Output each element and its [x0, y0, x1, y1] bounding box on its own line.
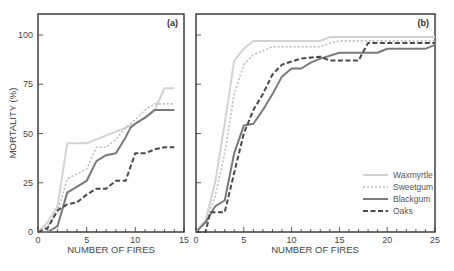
x-tick-label: 5: [241, 235, 246, 245]
series-blackgum: [38, 110, 174, 232]
legend-label-blackgum: Blackgum: [393, 194, 430, 204]
y-tick-label: 0: [28, 227, 33, 237]
x-tick-label: 25: [430, 235, 440, 245]
legend-label-sweetgum: Sweetgum: [393, 182, 433, 192]
legend-label-oaks: Oaks: [393, 206, 413, 216]
panel-a-x-axis-title: NUMBER OF FIRES: [67, 244, 155, 255]
y-axis-title: MORTALITY (%): [7, 88, 18, 159]
x-tick-label: 0: [35, 235, 40, 245]
y-tick-label: 50: [23, 129, 33, 139]
panel-a: 0255075100 051015 (a) NUMBER OF FIRES: [18, 14, 189, 255]
panel-a-x-ticks: 051015: [35, 227, 189, 245]
x-tick-label: 15: [179, 235, 189, 245]
x-tick-label: 20: [382, 235, 392, 245]
panel-b-x-ticks: 0510152025: [193, 227, 440, 245]
y-tick-label: 75: [23, 79, 33, 89]
y-tick-label: 25: [23, 178, 33, 188]
legend: Waxmyrtle Sweetgum Blackgum Oaks: [363, 170, 433, 216]
panel-b: 0510152025 (b) NUMBER OF FIRES Waxmyrtle…: [193, 14, 440, 255]
panel-a-frame: [38, 14, 184, 232]
legend-label-waxmyrtle: Waxmyrtle: [393, 170, 433, 180]
series-sweetgum: [38, 104, 174, 232]
panel-b-label: (b): [418, 18, 430, 28]
panel-a-y-ticks: 0255075100: [18, 30, 43, 237]
panel-a-label: (a): [167, 18, 178, 28]
y-tick-label: 100: [18, 30, 33, 40]
x-tick-label: 0: [193, 235, 198, 245]
figure: MORTALITY (%) 0255075100 051015 (a) NUMB…: [0, 0, 454, 271]
panel-a-series: [38, 88, 174, 232]
panel-b-y-ticks: [196, 35, 201, 232]
panel-b-x-axis-title: NUMBER OF FIRES: [271, 244, 359, 255]
